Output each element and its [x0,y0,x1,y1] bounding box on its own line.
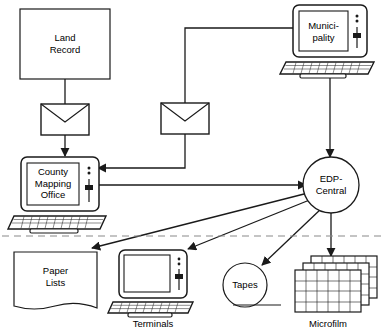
edge-edp-to-terminals [188,199,312,249]
envelope-right-icon [161,103,209,134]
diagram-svg [0,0,387,335]
paper-lists-document-icon [14,252,97,309]
tapes-reel-icon [223,263,281,307]
edge-municipality-to-envelope [185,28,295,103]
envelope-left-icon [41,104,89,135]
terminals-computer-icon [108,250,193,317]
terminals-caption: Terminals [93,318,213,329]
edge-edp-to-paper-lists [92,193,308,248]
diagram-canvas: Land Record Munici- pality County Mappin… [0,0,387,335]
municipality-computer-icon [280,5,374,78]
county-mapping-office-computer-icon [8,157,106,233]
microfilm-cards-icon [295,256,377,312]
edp-central-circle [303,157,359,213]
edge-envelope-to-county-2 [98,134,185,168]
land-record-box [20,9,110,79]
microfilm-caption: Microfilm [268,318,387,329]
